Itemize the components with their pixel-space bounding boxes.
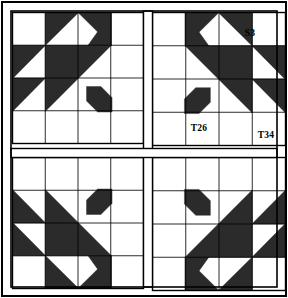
quilt-diagram-root: S3T26T34 (0, 0, 288, 298)
block-top-left (13, 13, 144, 144)
label-t34: T34 (258, 130, 274, 140)
block-bottom-right (153, 158, 286, 291)
label-t26: T26 (191, 123, 207, 133)
quilt-pattern-svg: S3T26T34 (0, 0, 288, 298)
block-bottom-left (13, 158, 144, 289)
sashing-horizontal (11, 149, 277, 158)
label-s3: S3 (245, 28, 255, 38)
block-top-right (153, 13, 286, 146)
